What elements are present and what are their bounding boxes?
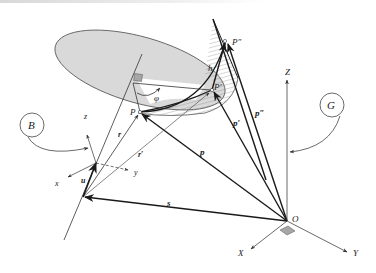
point-P [138, 110, 141, 113]
label-Y: Y [353, 248, 359, 258]
label-B: B [28, 119, 35, 131]
vector-r-prime [83, 93, 209, 197]
label-Z: Z [285, 67, 291, 77]
label-O: O [292, 214, 299, 224]
screw-motion-diagram: B G z x y Z X Y O u r r′ s p p′ p″ P P′ … [0, 0, 376, 273]
label-u: u [81, 176, 86, 185]
label-x: x [54, 179, 59, 188]
label-P-double-prime: P″ [231, 37, 241, 47]
label-z: z [83, 112, 88, 121]
point-P-double-prime [223, 39, 226, 42]
axis-z [87, 135, 96, 163]
axis-X [251, 221, 287, 249]
label-p: p [199, 147, 205, 157]
origin-marker [280, 226, 295, 235]
label-phi: φ [154, 93, 159, 103]
label-G: G [327, 99, 335, 111]
frame-G-badge [290, 93, 344, 152]
vector-s [85, 197, 287, 221]
label-s: s [166, 198, 171, 208]
label-P: P [129, 107, 136, 117]
label-y: y [133, 168, 138, 177]
axis-Y [287, 221, 347, 252]
label-P-prime: P′ [213, 82, 222, 92]
label-X: X [237, 248, 244, 258]
label-r: r [118, 130, 122, 139]
label-p-double-prime: p″ [254, 108, 265, 118]
right-angle-marker [134, 73, 143, 81]
body-frame-axes [68, 135, 128, 177]
vector-r [83, 115, 138, 197]
label-h: h [208, 63, 213, 73]
label-r-prime: r′ [138, 150, 143, 159]
label-p-prime: p′ [232, 118, 241, 128]
